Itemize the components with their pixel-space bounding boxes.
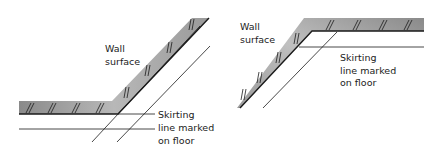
hatch-marks — [241, 20, 412, 100]
wall-label-2: surface — [105, 56, 140, 67]
skirting-label-2: line marked — [158, 122, 214, 133]
skirting-corner-diagram: Wall surface Skirting line marked on flo… — [0, 0, 444, 151]
skirting-label-3: on floor — [158, 135, 194, 146]
skirting-label: Skirting — [158, 109, 195, 120]
wall-label-2: surface — [240, 34, 275, 45]
skirting-label-2: line marked — [340, 65, 396, 76]
wall-label: Wall — [240, 21, 260, 32]
skirting-label: Skirting — [340, 52, 377, 63]
skirting-label-3: on floor — [340, 77, 376, 88]
wall-label: Wall — [105, 43, 125, 54]
right-corner-diagram: Wall surface Skirting line marked on flo… — [237, 18, 424, 108]
left-corner-diagram: Wall surface Skirting line marked on flo… — [19, 18, 214, 146]
